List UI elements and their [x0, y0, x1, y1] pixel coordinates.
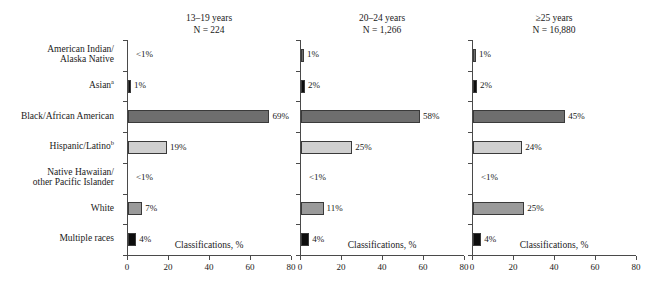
panel-title-sample-size: N = 16,880	[472, 24, 636, 36]
bar-value-label: 2%	[480, 80, 492, 90]
bar-asian	[301, 80, 305, 93]
x-axis-tick-label: 60	[410, 262, 436, 272]
x-axis-tick	[382, 256, 383, 260]
bar-american-indian-alaska-native	[301, 49, 304, 62]
x-axis-tick	[464, 256, 465, 260]
bar-asian	[473, 80, 477, 93]
bar-value-label: 45%	[568, 111, 585, 121]
category-label-line: other Pacific Islander	[33, 177, 114, 188]
x-axis-tick-label: 80	[623, 262, 649, 272]
bar-hispanic-latino	[473, 141, 522, 154]
y-axis-tick	[123, 132, 127, 133]
x-axis-tick	[209, 256, 210, 260]
bar-hispanic-latino	[301, 141, 352, 154]
x-axis-tick-label: 60	[582, 262, 608, 272]
bar-value-label: 11%	[327, 203, 343, 213]
bar-black-african-american	[301, 110, 420, 123]
bar-value-label: 19%	[170, 142, 187, 152]
y-axis-tick	[296, 194, 300, 195]
x-axis-title: Classifications, %	[127, 240, 291, 250]
y-axis-tick	[296, 132, 300, 133]
category-label-line: Alaska Native	[47, 54, 114, 65]
x-axis-tick	[127, 256, 128, 260]
category-label-line: Hispanic/Latinob	[50, 141, 114, 152]
x-axis-tick	[300, 256, 301, 260]
x-axis-tick-label: 60	[237, 262, 263, 272]
x-axis-tick	[554, 256, 555, 260]
y-axis-tick	[123, 101, 127, 102]
category-label-line: Black/African American	[21, 111, 114, 122]
x-axis-tick-label: 0	[287, 262, 313, 272]
x-axis-tick	[423, 256, 424, 260]
y-axis-tick	[296, 71, 300, 72]
panel-title: 20–24 yearsN = 1,266	[300, 12, 464, 36]
footnote-marker-a: a	[111, 78, 114, 85]
y-axis-tick	[123, 194, 127, 195]
y-axis-tick	[468, 194, 472, 195]
x-axis-title: Classifications, %	[472, 240, 636, 250]
y-axis-tick	[123, 71, 127, 72]
x-axis-tick	[595, 256, 596, 260]
panel-title-age-group: 13–19 years	[127, 12, 291, 24]
y-axis-tick	[296, 101, 300, 102]
y-axis-tick	[468, 163, 472, 164]
bar-white	[128, 202, 142, 215]
category-label-line: Multiple races	[59, 233, 114, 244]
panel-25-years: ≥25 yearsN = 16,8800204060801%2%45%24%<1…	[472, 0, 636, 295]
category-label-line: White	[91, 203, 114, 214]
bar-white	[301, 202, 324, 215]
x-axis-tick-label: 0	[459, 262, 485, 272]
x-axis-tick-label: 40	[196, 262, 222, 272]
x-axis-title: Classifications, %	[300, 240, 464, 250]
y-axis-tick	[468, 224, 472, 225]
x-axis-tick	[291, 256, 292, 260]
bar-american-indian-alaska-native	[473, 49, 476, 62]
bar-value-label: <1%	[309, 172, 326, 182]
bar-value-label: 1%	[134, 80, 146, 90]
y-axis-tick	[468, 40, 472, 41]
y-axis-tick	[468, 101, 472, 102]
y-axis-tick	[123, 40, 127, 41]
plot-area: 020406080<1%1%69%19%<1%7%4%	[127, 40, 291, 255]
x-axis-tick	[250, 256, 251, 260]
panel-title-age-group: ≥25 years	[472, 12, 636, 24]
bar-value-label: 25%	[527, 203, 544, 213]
plot-area: 0204060801%2%45%24%<1%25%4%	[472, 40, 636, 255]
y-axis-tick	[296, 40, 300, 41]
x-axis-tick-label: 40	[369, 262, 395, 272]
bar-asian	[128, 80, 131, 93]
x-axis-tick	[636, 256, 637, 260]
bar-value-label: 58%	[423, 111, 440, 121]
bar-value-label: <1%	[136, 49, 153, 59]
bar-black-african-american	[128, 110, 269, 123]
bar-value-label: 2%	[308, 80, 320, 90]
bar-value-label: 7%	[145, 203, 157, 213]
bar-value-label: 1%	[307, 49, 319, 59]
bar-value-label: <1%	[136, 172, 153, 182]
x-axis-tick-label: 20	[155, 262, 181, 272]
category-label-asian: Asiana	[89, 80, 114, 91]
x-axis-tick	[168, 256, 169, 260]
y-axis-tick	[123, 224, 127, 225]
category-label-multiple-races: Multiple races	[59, 233, 114, 244]
x-axis-tick-label: 0	[114, 262, 140, 272]
bar-hispanic-latino	[128, 141, 167, 154]
x-axis-tick-label: 40	[541, 262, 567, 272]
y-axis-tick	[468, 71, 472, 72]
panel-20-24-years: 20–24 yearsN = 1,2660204060801%2%58%25%<…	[300, 0, 464, 295]
panel-title-sample-size: N = 224	[127, 24, 291, 36]
bar-black-african-american	[473, 110, 565, 123]
category-label-white: White	[91, 203, 114, 214]
bar-white	[473, 202, 524, 215]
category-label-line: Native Hawaiian/	[33, 167, 114, 178]
bar-value-label: 24%	[525, 142, 542, 152]
y-axis-tick	[296, 163, 300, 164]
bar-value-label: <1%	[481, 172, 498, 182]
y-axis-tick	[296, 224, 300, 225]
panel-13-19-years: 13–19 yearsN = 224020406080<1%1%69%19%<1…	[127, 0, 291, 295]
category-label-hispanic-latino: Hispanic/Latinob	[50, 141, 114, 152]
plot-area: 0204060801%2%58%25%<1%11%4%	[300, 40, 464, 255]
bar-value-label: 1%	[479, 49, 491, 59]
x-axis-tick	[513, 256, 514, 260]
bar-value-label: 25%	[355, 142, 372, 152]
